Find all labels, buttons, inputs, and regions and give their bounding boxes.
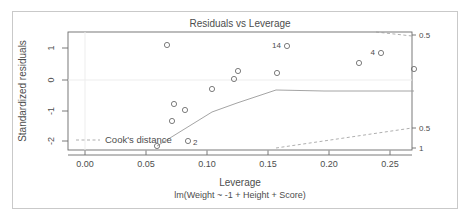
data-point[interactable] [231,76,236,81]
plot-title: Residuals vs Leverage [189,18,291,29]
residuals-vs-leverage-plot: Residuals vs Leverage Standardized resid… [0,0,471,221]
x-tick-label: 0.25 [381,159,399,169]
y-tick-label: 0 [46,77,56,82]
x-tick-label: 0.15 [259,159,277,169]
point-label-4: 4 [371,48,376,57]
data-point[interactable] [169,118,174,123]
data-point-2[interactable] [185,138,190,143]
y-axis-title: Standardized residuals [17,40,28,142]
y-tick-label: -2 [46,137,56,145]
y-tick-label: -1 [46,107,56,115]
cooks-distance-legend: Cook's distance [76,134,172,145]
y-axis-ticks: 1 0 -1 -2 [46,45,68,145]
x-axis-title: Leverage [219,177,261,188]
data-point-4[interactable] [378,50,383,55]
data-point[interactable] [356,60,361,65]
point-label-14: 14 [272,41,281,50]
right-tick-label: 0.5 [419,124,431,133]
data-point-14[interactable] [284,43,289,48]
x-tick-label: 0.05 [137,159,155,169]
point-label-2: 2 [193,138,198,147]
x-tick-label: 0.10 [198,159,216,169]
data-point[interactable] [209,86,214,91]
data-point[interactable] [274,70,279,75]
x-tick-label: 0.00 [76,159,94,169]
x-tick-label: 0.20 [320,159,338,169]
right-axis-ticks: 0.5 0.5 1 [412,31,431,153]
data-point[interactable] [164,42,169,47]
cooks-contour-upper [376,32,412,36]
data-point[interactable] [182,107,187,112]
data-point[interactable] [235,68,240,73]
cooks-contour-lower [276,128,412,148]
right-tick-label: 1 [419,144,424,153]
cooks-distance-legend-label: Cook's distance [105,134,172,145]
data-points [154,42,416,148]
x-axis-ticks: 0.00 0.05 0.10 0.15 0.20 0.25 [76,151,399,170]
data-point[interactable] [171,101,176,106]
y-tick-label: 1 [46,45,56,50]
plot-stage: Residuals vs Leverage Standardized resid… [0,0,471,221]
right-tick-label: 0.5 [419,31,431,40]
model-formula-subtitle: lm(Weight ~ -1 + Height + Score) [174,190,306,200]
